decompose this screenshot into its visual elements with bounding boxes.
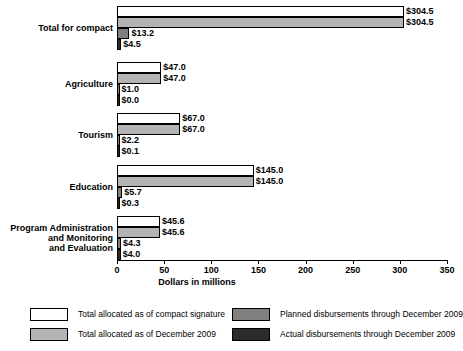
x-tick-label: 250	[338, 265, 368, 275]
category-label: Education	[0, 182, 113, 192]
bar-row: $4.5	[117, 39, 447, 50]
bar	[117, 227, 160, 238]
x-tick	[306, 260, 307, 264]
bar	[117, 216, 160, 227]
bar-row: $304.5	[117, 6, 447, 17]
bar-row: $0.3	[117, 198, 447, 209]
category-label: Tourism	[0, 130, 113, 140]
bar-row: $47.0	[117, 73, 447, 84]
bar-row: $0.1	[117, 146, 447, 157]
legend-label: Total allocated as of December 2009	[78, 329, 216, 339]
bar-row: $5.7	[117, 187, 447, 198]
x-tick-label: 0	[102, 265, 132, 275]
legend-label: Planned disbursements through December 2…	[280, 309, 463, 319]
bar-value-label: $67.0	[182, 113, 205, 124]
x-tick	[447, 260, 448, 264]
bar	[117, 17, 404, 28]
bar-value-label: $5.7	[124, 187, 142, 198]
bar	[117, 6, 404, 17]
x-tick-label: 150	[243, 265, 273, 275]
x-tick	[117, 260, 118, 264]
bar	[117, 95, 120, 106]
legend-swatch	[232, 308, 270, 321]
legend-label: Actual disbursements through December 20…	[280, 329, 455, 339]
bar-value-label: $47.0	[163, 73, 186, 84]
bar	[117, 176, 254, 187]
category-label: Total for compact	[0, 23, 113, 33]
bar-row: $47.0	[117, 62, 447, 73]
x-axis-title: Dollars in millions	[117, 277, 277, 287]
bar-row: $4.0	[117, 249, 447, 260]
x-tick	[400, 260, 401, 264]
chart-legend: Total allocated as of compact signatureT…	[30, 307, 450, 347]
x-tick-label: 200	[291, 265, 321, 275]
bar-row: $4.3	[117, 238, 447, 249]
category-label-line: Agriculture	[0, 79, 113, 89]
bar	[117, 249, 121, 260]
bar-row: $45.6	[117, 227, 447, 238]
bar-row: $67.0	[117, 124, 447, 135]
bar-value-label: $67.0	[182, 124, 205, 135]
bar-row: $13.2	[117, 28, 447, 39]
bar-value-label: $45.6	[162, 216, 185, 227]
x-tick-label: 350	[432, 265, 462, 275]
category-label: Agriculture	[0, 79, 113, 89]
bar-row: $304.5	[117, 17, 447, 28]
bar-row: $0.0	[117, 95, 447, 106]
x-tick	[258, 260, 259, 264]
x-tick-label: 50	[149, 265, 179, 275]
bar-value-label: $4.5	[123, 39, 141, 50]
bar	[117, 165, 254, 176]
bar-group: Agriculture$47.0$47.0$1.0$0.0	[0, 62, 458, 106]
category-label-line: and Evaluation	[0, 243, 113, 253]
bar	[117, 238, 121, 249]
bar-value-label: $0.3	[122, 198, 140, 209]
bar	[117, 73, 161, 84]
bar	[117, 135, 120, 146]
bar-value-label: $45.6	[162, 227, 185, 238]
category-label-line: Program Administration	[0, 223, 113, 233]
bar-value-label: $304.5	[406, 17, 434, 28]
bar-row: $45.6	[117, 216, 447, 227]
bar-value-label: $4.0	[123, 249, 141, 260]
category-label-line: Education	[0, 182, 113, 192]
bar-group: Tourism$67.0$67.0$2.2$0.1	[0, 113, 458, 157]
bar	[117, 84, 120, 95]
bar	[117, 62, 161, 73]
bar-value-label: $4.3	[123, 238, 141, 249]
bar-value-label: $13.2	[131, 28, 154, 39]
bar-value-label: $2.2	[122, 135, 140, 146]
x-axis-line	[117, 260, 448, 261]
x-tick	[164, 260, 165, 264]
bar-value-label: $0.0	[122, 95, 140, 106]
x-tick	[353, 260, 354, 264]
x-tick	[211, 260, 212, 264]
x-tick-label: 100	[196, 265, 226, 275]
bar	[117, 28, 129, 39]
bar	[117, 198, 120, 209]
bar	[117, 39, 121, 50]
bar-value-label: $145.0	[256, 165, 284, 176]
legend-swatch	[30, 308, 68, 321]
bar-value-label: $145.0	[256, 176, 284, 187]
bar-group: Total for compact$304.5$304.5$13.2$4.5	[0, 6, 458, 50]
category-label-line: Tourism	[0, 130, 113, 140]
bar	[117, 113, 180, 124]
bar-row: $1.0	[117, 84, 447, 95]
bar-value-label: $1.0	[122, 84, 140, 95]
category-label: Program Administrationand Monitoringand …	[0, 223, 113, 253]
legend-label: Total allocated as of compact signature	[78, 309, 225, 319]
bar-row: $2.2	[117, 135, 447, 146]
legend-swatch	[30, 328, 68, 341]
bar	[117, 187, 122, 198]
bar	[117, 146, 120, 157]
bar-row: $145.0	[117, 176, 447, 187]
bar-row: $145.0	[117, 165, 447, 176]
bar	[117, 124, 180, 135]
bar-group: Education$145.0$145.0$5.7$0.3	[0, 165, 458, 209]
bar-value-label: $0.1	[122, 146, 140, 157]
bar-value-label: $304.5	[406, 6, 434, 17]
bar-group: Program Administrationand Monitoringand …	[0, 216, 458, 260]
legend-swatch	[232, 328, 270, 341]
